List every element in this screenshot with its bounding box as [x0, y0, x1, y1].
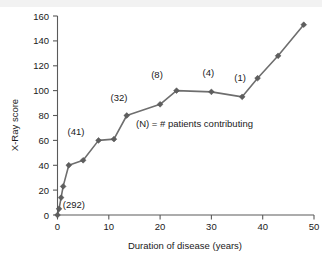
annotation-n-1: (1) [234, 72, 246, 83]
x-tick-label-30: 30 [206, 221, 217, 232]
data-point-marker [111, 136, 117, 142]
y-tick-label-100: 100 [33, 85, 49, 96]
x-tick-label-10: 10 [104, 221, 115, 232]
annotation-n-32: (32) [111, 92, 128, 103]
legend-note: (N) = # patients contributing [136, 118, 253, 129]
y-tick-label-80: 80 [38, 110, 49, 121]
annotation-n-4: (4) [203, 67, 215, 78]
x-tick-label-20: 20 [155, 221, 166, 232]
annotation-n-292: (292) [63, 199, 85, 210]
annotation-n-41: (41) [68, 126, 85, 137]
y-axis-ticks [53, 16, 58, 215]
y-tick-label-60: 60 [38, 135, 49, 146]
data-point-marker [55, 212, 61, 218]
xray-score-chart-figure: 160 140 120 100 80 60 40 20 0 0 10 20 30… [0, 0, 322, 262]
x-tick-label-50: 50 [309, 221, 320, 232]
x-tick-label-40: 40 [257, 221, 268, 232]
annotations-group: (292)(41)(32)(8)(4)(1) [63, 67, 246, 210]
x-axis-title: Duration of disease (years) [128, 240, 242, 251]
chart-plot-area: 160 140 120 100 80 60 40 20 0 0 10 20 30… [0, 0, 322, 262]
y-tick-label-160: 160 [33, 11, 49, 22]
data-point-marker [209, 89, 215, 95]
data-point-marker [60, 183, 66, 189]
data-point-marker [124, 113, 130, 119]
y-tick-label-120: 120 [33, 60, 49, 71]
y-tick-label-40: 40 [38, 160, 49, 171]
x-axis-ticks [58, 215, 315, 220]
y-tick-label-0: 0 [44, 210, 49, 221]
x-tick-label-0: 0 [55, 221, 60, 232]
data-point-marker [66, 162, 72, 168]
y-tick-label-20: 20 [38, 185, 49, 196]
y-axis-title: X-Ray score [9, 99, 20, 151]
annotation-n-8: (8) [151, 69, 163, 80]
y-tick-label-140: 140 [33, 35, 49, 46]
